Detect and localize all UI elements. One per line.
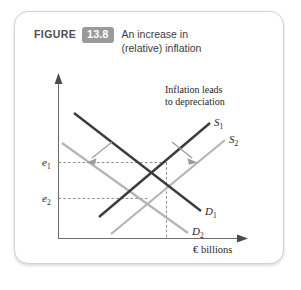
- shift-arrow-demand-line: [92, 142, 112, 158]
- figure-card: FIGURE 13.8 An increase in (relative) in…: [14, 11, 284, 264]
- curve-label-s1: S1: [214, 116, 224, 131]
- chart-svg: e1 e2 S1 S2 D1 D2: [15, 12, 284, 264]
- curve-label-d2: D2: [191, 225, 204, 240]
- y-axis-arrowhead: [55, 73, 63, 84]
- x-axis-arrowhead: [237, 235, 248, 243]
- y-tick-label-e1: e1: [42, 156, 51, 171]
- supply-demand-chart: e1 e2 S1 S2 D1 D2: [15, 12, 284, 264]
- y-axis-tick-labels: e1 e2: [42, 156, 51, 207]
- annotation-line-2: to depreciation: [165, 96, 225, 107]
- chart-annotation: Inflation leads to depreciation: [165, 84, 225, 107]
- x-axis-caption: € billions: [193, 244, 232, 255]
- curve-label-d1: D1: [204, 205, 217, 220]
- chart-shifted-curves: [62, 140, 225, 234]
- curve-label-s2: S2: [229, 133, 239, 148]
- y-tick-label-e2: e2: [42, 192, 51, 207]
- annotation-line-1: Inflation leads: [165, 84, 223, 95]
- chart-shift-arrows: [87, 142, 198, 165]
- shift-arrow-supply-line: [172, 142, 192, 158]
- curve-s1: [99, 123, 210, 217]
